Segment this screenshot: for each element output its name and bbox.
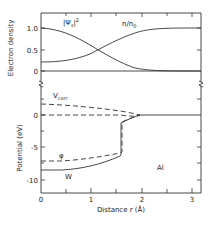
upper-tick-label: 1.0 (27, 25, 38, 33)
al-label: Al (157, 164, 164, 172)
chart-canvas: 1.0 0.5 0 Electron density |Ψs|2 n/n0 0 … (0, 0, 213, 225)
vcorr-curve (41, 104, 140, 115)
x-tick-label: 2 (140, 196, 144, 204)
x-axis-label: Distance r (Å) (97, 205, 145, 214)
lower-tick-label: -5 (31, 144, 38, 152)
density-ratio-label: n/n0 (122, 20, 136, 29)
lower-y-axis-label: Potential (eV) (16, 124, 24, 172)
w-curve (41, 115, 140, 170)
vcorr-label: Vcorr (53, 92, 69, 101)
psi-label: |Ψs|2 (63, 17, 79, 28)
axis-break-right (199, 81, 203, 87)
upper-tick-label: 0.5 (27, 47, 38, 55)
x-tick-label: 3 (190, 196, 194, 204)
x-tick-label: 0 (39, 196, 43, 204)
w-label: W (65, 173, 72, 181)
lower-tick-label: -10 (27, 177, 38, 185)
plot-frame (41, 13, 201, 193)
phi-label: φ (59, 152, 64, 160)
phi-curve (41, 115, 140, 161)
axis-break-left (39, 81, 43, 87)
lower-tick-label: 0 (34, 112, 38, 120)
x-tick-label: 1 (89, 196, 93, 204)
upper-y-axis-label: Electron density (7, 20, 15, 77)
zero-reference-dashed (41, 115, 140, 116)
psi-squared-curve (41, 28, 201, 71)
upper-tick-label: 0 (34, 68, 38, 76)
